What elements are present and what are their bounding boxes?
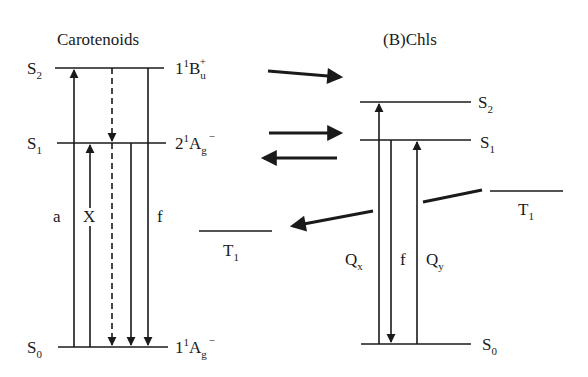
energy-transfer-arrows bbox=[264, 71, 482, 226]
chl-label-qy: Qy bbox=[426, 250, 444, 272]
car-s2-label: S2 bbox=[27, 59, 42, 81]
chl-label-qx: Qx bbox=[345, 250, 363, 272]
carotenoids-title: Carotenoids bbox=[57, 30, 139, 49]
car-s0-term: 11Ag− bbox=[175, 334, 215, 360]
car-s2-term: 11Bu+ bbox=[175, 55, 206, 81]
carotenoids-panel: Carotenoids S2 S1 S0 11Bu+ 21Ag− 11Ag− a… bbox=[27, 30, 272, 360]
chl-s2-label: S2 bbox=[478, 93, 493, 115]
car-t1-label: T1 bbox=[223, 241, 239, 263]
energy-level-diagram: Carotenoids S2 S1 S0 11Bu+ 21Ag− 11Ag− a… bbox=[0, 0, 588, 377]
chls-title: (B)Chls bbox=[383, 30, 437, 49]
transfer-arrow-car-s2-to-chl bbox=[268, 71, 340, 77]
car-label-a: a bbox=[53, 207, 61, 226]
chl-s0-label: S0 bbox=[482, 335, 497, 357]
chls-panel: (B)Chls S2 S1 S0 Qx f Qy T1 bbox=[345, 30, 563, 357]
car-s1-term: 21Ag− bbox=[175, 130, 215, 156]
car-label-f: f bbox=[157, 207, 163, 226]
chl-s1-label: S1 bbox=[480, 133, 495, 155]
car-s0-label: S0 bbox=[27, 338, 42, 360]
chl-t1-connector-line bbox=[423, 190, 482, 202]
chl-label-f: f bbox=[400, 250, 406, 269]
transfer-arrow-chl-t1-to-car-t1 bbox=[293, 211, 373, 226]
car-s1-label: S1 bbox=[27, 134, 42, 156]
chl-t1-label: T1 bbox=[518, 200, 534, 222]
car-label-x: X bbox=[83, 207, 95, 226]
